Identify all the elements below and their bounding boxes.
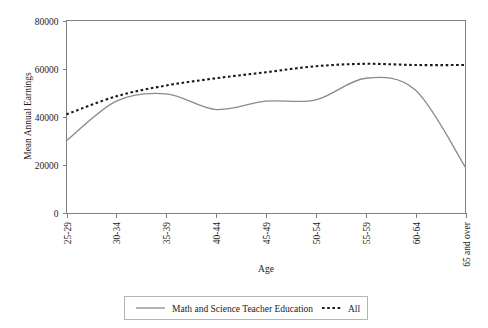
x-axis-title: Age: [258, 264, 274, 274]
legend-label-math-and-science-teacher-education: Math and Science Teacher Education: [172, 304, 313, 314]
x-tick-label: 40-44: [212, 222, 222, 244]
legend-label-all: All: [348, 304, 361, 314]
x-tick-label: 50-54: [312, 222, 322, 244]
x-tick-label: 25-29: [63, 222, 73, 244]
series-line-all: [67, 64, 466, 115]
y-axis-tick-labels: 020000400006000080000: [35, 17, 59, 219]
x-tick-label: 55-59: [362, 222, 372, 244]
y-tick-label: 0: [54, 209, 59, 219]
x-tick-label: 60-64: [412, 222, 422, 244]
x-tick-label: 65 and over: [462, 221, 472, 267]
x-axis-ticks: [68, 213, 467, 218]
y-tick-label: 20000: [35, 161, 59, 171]
y-axis-ticks: [63, 22, 67, 214]
chart-figure: 020000400006000080000 25-2930-3435-3940-…: [0, 0, 488, 328]
x-axis-tick-labels: 25-2930-3435-3940-4445-4950-5455-5960-64…: [63, 221, 472, 267]
y-tick-label: 80000: [35, 17, 59, 27]
y-tick-label: 40000: [35, 113, 59, 123]
plot-area-border: [67, 21, 466, 214]
x-tick-label: 35-39: [162, 222, 172, 244]
y-axis-title: Mean Annual Earnings: [23, 72, 33, 160]
x-tick-label: 30-34: [112, 222, 122, 244]
line-chart: 020000400006000080000 25-2930-3435-3940-…: [0, 0, 488, 328]
chart-legend: Math and Science Teacher Education All: [125, 297, 368, 320]
x-tick-label: 45-49: [262, 222, 272, 244]
y-tick-label: 60000: [35, 65, 59, 75]
series-line-math-and-science-teacher-education: [67, 77, 466, 167]
